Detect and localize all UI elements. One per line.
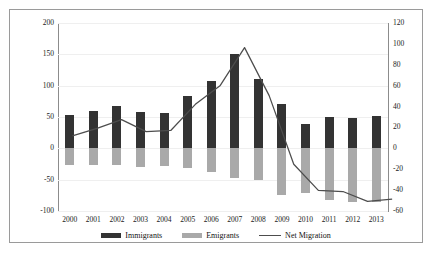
legend-label-net_migration: Net Migration [285, 231, 331, 240]
bar-immigrants [325, 117, 334, 148]
y-tick-label-left: 200 [22, 19, 54, 27]
x-tick-label: 2001 [82, 215, 106, 224]
chart-legend: ImmigrantsEmigrantsNet Migration [9, 228, 423, 242]
bar-emigrants [207, 148, 216, 171]
bar-immigrants [348, 118, 357, 149]
gridline [58, 211, 388, 212]
x-tick-label: 2005 [176, 215, 200, 224]
x-tick-label: 2004 [152, 215, 176, 224]
gridline [58, 180, 388, 181]
legend-item-immigrants[interactable]: Immigrants [101, 231, 162, 240]
bar-emigrants [89, 148, 98, 165]
gridline [58, 117, 388, 118]
y-tick-label-right: -40 [393, 186, 427, 194]
bar-emigrants [183, 148, 192, 167]
bar-emigrants [65, 148, 74, 165]
x-tick-label: 2010 [294, 215, 318, 224]
y-tick-label-right: 100 [393, 40, 427, 48]
y-tick-label-right: 80 [393, 61, 427, 69]
y-tick-label-right: 120 [393, 19, 427, 27]
gridline [58, 86, 388, 87]
legend-label-emigrants: Emigrants [206, 231, 239, 240]
x-tick-label: 2009 [270, 215, 294, 224]
x-tick-label: 2011 [317, 215, 341, 224]
y-tick-label-right: -20 [393, 165, 427, 173]
bar-emigrants [254, 148, 263, 179]
y-tick-label-left: -100 [22, 207, 54, 215]
y-tick-label-right: -60 [393, 207, 427, 215]
bar-emigrants [136, 148, 145, 167]
x-tick-label: 2003 [129, 215, 153, 224]
bar-immigrants [230, 54, 239, 149]
bar-emigrants [325, 148, 334, 199]
bar-emigrants [160, 148, 169, 166]
y-tick-label-left: 0 [22, 144, 54, 152]
x-tick-label: 2002 [105, 215, 129, 224]
chart-frame: 200150100500-50-100 120100806040200-20-4… [9, 9, 423, 243]
bar-immigrants [277, 104, 286, 148]
bar-emigrants [372, 148, 381, 202]
x-tick-label: 2007 [223, 215, 247, 224]
bar-immigrants [136, 112, 145, 148]
legend-item-net_migration[interactable]: Net Migration [259, 231, 331, 240]
bar-immigrants [372, 116, 381, 149]
legend-swatch-immigrants-icon [101, 233, 121, 238]
y-tick-label-left: 150 [22, 50, 54, 58]
x-tick-label: 2006 [199, 215, 223, 224]
y-tick-label-right: 0 [393, 144, 427, 152]
x-tick-label: 2012 [341, 215, 365, 224]
bar-immigrants [207, 81, 216, 148]
bar-emigrants [112, 148, 121, 164]
bar-emigrants [230, 148, 239, 177]
legend-swatch-net_migration-icon [259, 235, 281, 236]
x-tick-label: 2000 [58, 215, 82, 224]
chart-figure: 200150100500-50-100 120100806040200-20-4… [0, 0, 432, 264]
y-tick-label-left: 100 [22, 82, 54, 90]
bar-emigrants [348, 148, 357, 202]
gridline [58, 23, 388, 24]
bar-immigrants [254, 79, 263, 148]
y-tick-label-right: 20 [393, 123, 427, 131]
y-tick-label-left: -50 [22, 176, 54, 184]
bar-emigrants [277, 148, 286, 194]
gridline [58, 54, 388, 55]
y-tick-label-right: 60 [393, 82, 427, 90]
bar-immigrants [183, 96, 192, 149]
bar-immigrants [160, 113, 169, 148]
bar-immigrants [89, 111, 98, 148]
bar-immigrants [65, 115, 74, 148]
chart-title-strip [0, 0, 432, 9]
y-axis-right [388, 23, 389, 212]
legend-swatch-emigrants-icon [182, 233, 202, 238]
bar-emigrants [301, 148, 310, 192]
legend-item-emigrants[interactable]: Emigrants [182, 231, 239, 240]
y-tick-label-left: 50 [22, 113, 54, 121]
bar-immigrants [112, 106, 121, 148]
legend-label-immigrants: Immigrants [125, 231, 162, 240]
x-tick-label: 2013 [364, 215, 388, 224]
bar-immigrants [301, 124, 310, 148]
gridline [58, 148, 388, 149]
legend-divider [9, 242, 423, 243]
x-tick-label: 2008 [247, 215, 271, 224]
y-tick-label-right: 40 [393, 103, 427, 111]
